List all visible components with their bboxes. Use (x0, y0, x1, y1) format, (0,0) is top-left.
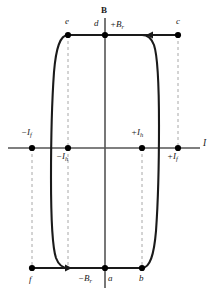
label-positive-remanence-subscript: r (122, 23, 125, 30)
label-positive-If-subscript: f (176, 155, 178, 162)
point-marker-d (102, 32, 108, 38)
label-positive-Ih: +Ih (131, 128, 143, 137)
label-negative-If: −If (21, 128, 32, 137)
label-point-c: c (176, 17, 180, 26)
label-point-f: f (29, 275, 32, 284)
label-negative-remanence-subscript: r (90, 277, 93, 284)
label-positive-remanence-main: +B (110, 19, 122, 29)
label-positive-remanence: +Br (110, 20, 124, 29)
axis-label-B: B (101, 6, 107, 15)
point-marker-c (175, 32, 181, 38)
point-marker-a (102, 265, 108, 271)
label-negative-If-subscript: f (30, 131, 32, 138)
label-point-e: e (65, 17, 69, 26)
label-positive-If: +If (167, 152, 178, 161)
label-negative-remanence-main: −B (78, 273, 90, 283)
label-positive-If-main: +I (167, 151, 176, 161)
axis-label-I: I (203, 139, 206, 149)
label-negative-Ih: −Ih (56, 152, 68, 161)
hysteresis-loop-svg (0, 0, 216, 296)
arrow-right-bottom-segment (65, 265, 72, 272)
label-negative-Ih-subscript: h (65, 155, 68, 162)
label-point-a: a (108, 274, 113, 283)
label-negative-remanence: −Br (78, 274, 92, 283)
label-point-d: d (94, 19, 99, 28)
label-negative-If-main: −I (21, 127, 30, 137)
point-marker-b (139, 265, 145, 271)
label-negative-Ih-main: −I (56, 151, 65, 161)
point-marker-f (29, 265, 35, 271)
label-point-b: b (139, 274, 144, 283)
point-marker-neg-Ih (65, 145, 71, 151)
label-positive-Ih-main: +I (131, 127, 140, 137)
point-marker-neg-If (29, 145, 35, 151)
point-marker-pos-Ih (139, 145, 145, 151)
hysteresis-loop-figure: B I e d c +Br −If −Ih +Ih +If f −Br a b (0, 0, 216, 296)
point-marker-e (65, 32, 71, 38)
label-positive-Ih-subscript: h (140, 131, 143, 138)
